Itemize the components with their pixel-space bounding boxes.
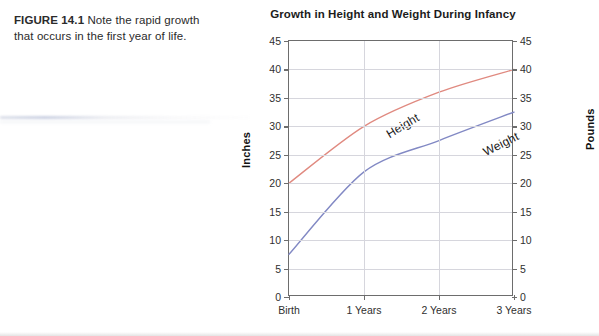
- y-axis-right-tick: [512, 155, 517, 156]
- gridline-horizontal: [289, 155, 512, 156]
- y-axis-right-tick: [512, 269, 517, 270]
- y-axis-right-label: 20: [520, 177, 532, 189]
- y-axis-left-label: 40: [269, 63, 281, 75]
- gridline-vertical: [439, 41, 440, 295]
- y-axis-right-label: 0: [520, 291, 526, 303]
- y-axis-right-tick: [512, 126, 517, 127]
- y-axis-right-tick: [512, 183, 517, 184]
- y-axis-left-tick: [284, 155, 289, 156]
- y-axis-left-tick: [284, 98, 289, 99]
- y-axis-right-label: 25: [520, 149, 532, 161]
- y-axis-right-tick: [512, 212, 517, 213]
- y-axis-left-title: Inches: [240, 132, 252, 168]
- gridline-horizontal: [289, 212, 512, 213]
- x-axis-label: Birth: [278, 304, 300, 316]
- y-axis-left-label: 35: [269, 92, 281, 104]
- gridline-vertical: [364, 41, 365, 295]
- scan-artifact-band: [0, 116, 250, 119]
- y-axis-right-tick: [512, 41, 517, 42]
- x-axis-tick: [289, 295, 290, 300]
- y-axis-left-label: 10: [269, 234, 281, 246]
- y-axis-right-label: 30: [520, 120, 532, 132]
- y-axis-left-label: 25: [269, 149, 281, 161]
- y-axis-right-label: 10: [520, 234, 532, 246]
- x-axis-label: 1 Years: [346, 304, 381, 316]
- gridline-horizontal: [289, 69, 512, 70]
- y-axis-left-tick: [284, 212, 289, 213]
- y-axis-right-title: Pounds: [584, 108, 596, 150]
- y-axis-left-tick: [284, 183, 289, 184]
- y-axis-left-label: 45: [269, 35, 281, 47]
- y-axis-right-label: 5: [520, 263, 526, 275]
- y-axis-left-tick: [284, 269, 289, 270]
- gridline-horizontal: [289, 269, 512, 270]
- y-axis-right-tick: [512, 69, 517, 70]
- y-axis-left-label: 20: [269, 177, 281, 189]
- figure-chart: Growth in Height and Weight During Infan…: [228, 0, 599, 336]
- y-axis-left-label: 5: [275, 263, 281, 275]
- series-lines: [289, 41, 514, 297]
- gridline-horizontal: [289, 183, 512, 184]
- x-axis-tick: [364, 295, 365, 300]
- plot-area: Height Weight 00551010151520202525303035…: [288, 40, 513, 296]
- figure-caption: FIGURE 14.1 Note the rapid growth that o…: [14, 12, 210, 44]
- y-axis-left-tick: [284, 69, 289, 70]
- x-axis-tick: [439, 295, 440, 300]
- x-axis-tick: [514, 295, 515, 300]
- y-axis-right-label: 15: [520, 206, 532, 218]
- y-axis-right-label: 45: [520, 35, 532, 47]
- x-axis-label: 3 Years: [496, 304, 531, 316]
- y-axis-right-tick: [512, 98, 517, 99]
- y-axis-left-label: 15: [269, 206, 281, 218]
- y-axis-right-tick: [512, 240, 517, 241]
- y-axis-left-label: 30: [269, 120, 281, 132]
- x-axis-label: 2 Years: [421, 304, 456, 316]
- gridline-horizontal: [289, 240, 512, 241]
- gridline-horizontal: [289, 126, 512, 127]
- y-axis-left-tick: [284, 126, 289, 127]
- chart-title: Growth in Height and Weight During Infan…: [228, 8, 558, 20]
- y-axis-left-label: 0: [275, 291, 281, 303]
- y-axis-left-tick: [284, 240, 289, 241]
- y-axis-right-label: 40: [520, 63, 532, 75]
- y-axis-left-tick: [284, 41, 289, 42]
- gridline-horizontal: [289, 98, 512, 99]
- scan-artifact-band-secondary: [0, 121, 210, 123]
- figure-caption-label: FIGURE 14.1: [14, 14, 84, 26]
- y-axis-right-label: 35: [520, 92, 532, 104]
